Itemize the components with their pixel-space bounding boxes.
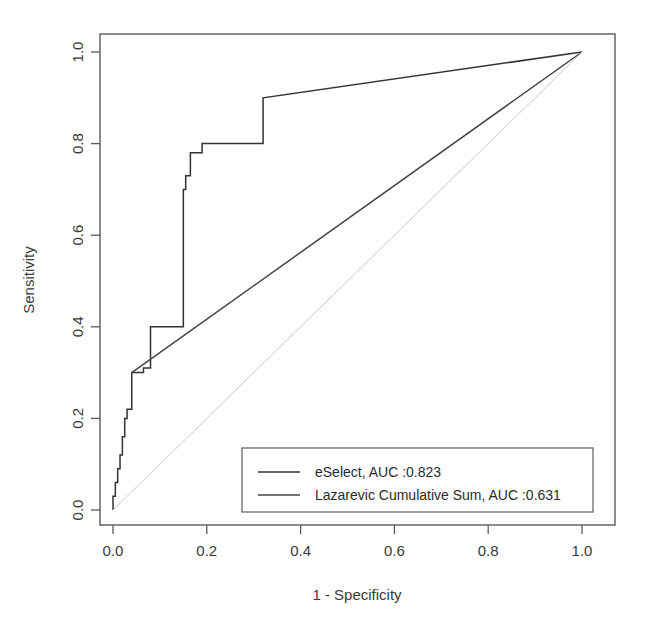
x-tick-label: 0.2 <box>196 542 217 559</box>
chart-background <box>0 0 654 631</box>
x-tick-label: 1.0 <box>572 542 593 559</box>
roc-chart: 0.00.20.40.60.81.0 0.00.20.40.60.81.0 1 … <box>0 0 654 631</box>
y-tick-label: 0.2 <box>69 408 86 429</box>
roc-plot-svg: 0.00.20.40.60.81.0 0.00.20.40.60.81.0 1 … <box>0 0 654 631</box>
y-tick-label: 0.4 <box>69 316 86 337</box>
legend: eSelect, AUC :0.823 Lazarevic Cumulative… <box>242 448 593 512</box>
y-tick-label: 0.8 <box>69 133 86 154</box>
y-tick-label: 0.6 <box>69 225 86 246</box>
x-tick-label: 0.6 <box>384 542 405 559</box>
legend-label-lazarevic: Lazarevic Cumulative Sum, AUC :0.631 <box>315 487 561 503</box>
x-tick-label: 0.4 <box>290 542 311 559</box>
x-axis-title: 1 - Specificity <box>312 586 402 603</box>
x-tick-label: 0.0 <box>103 542 124 559</box>
y-tick-label: 1.0 <box>69 42 86 63</box>
legend-label-eselect: eSelect, AUC :0.823 <box>315 464 441 480</box>
y-tick-label: 0.0 <box>69 500 86 521</box>
x-tick-label: 0.8 <box>478 542 499 559</box>
y-axis-title: Sensitivity <box>20 246 37 314</box>
